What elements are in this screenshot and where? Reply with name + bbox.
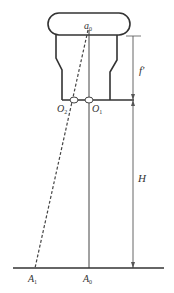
label-O2: O2 (57, 103, 67, 115)
label-f-prime: f' (139, 64, 145, 76)
lens-center-O2 (70, 97, 78, 103)
arrow-down-icon (131, 94, 135, 100)
camera-body-right-wall (110, 35, 117, 100)
arrow-up-icon (131, 100, 135, 106)
dashed-ray-line (35, 30, 88, 268)
label-A0: A0 (82, 273, 92, 285)
label-a0: a0 (84, 20, 92, 32)
camera-body-left-wall (56, 35, 62, 100)
arrow-down-ground-icon (131, 262, 135, 268)
diagram-canvas: a0 O2 O1 f' H A1 A0 (0, 0, 174, 293)
label-H: H (137, 172, 147, 184)
label-O1: O1 (92, 103, 102, 115)
label-A1: A1 (27, 273, 37, 285)
